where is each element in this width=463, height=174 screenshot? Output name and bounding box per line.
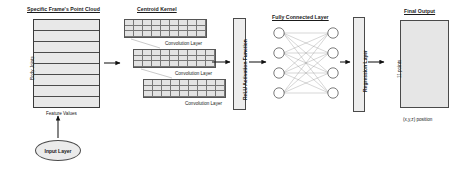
convolution-grid-3 [143,79,226,98]
neural-network-architecture-diagram: Specific Frame's Point Cloud Body Joints… [0,0,463,174]
grid-cell [188,61,197,67]
grid-cell [197,61,206,67]
grid-cell [134,61,143,67]
grid-cell [198,91,207,97]
fully-connected-layer-title: Fully Connected Layer [272,14,329,20]
grid-cell [171,91,180,97]
grid-cell [161,31,170,37]
position-label: (x,y,z) position [403,117,432,122]
grid-cell [189,91,198,97]
grid-cell [144,91,153,97]
final-output-title: Final Output [404,8,435,14]
connector-grid1-grid2 [131,39,160,48]
centroid-kernel-grid [124,19,207,38]
grid-cell [207,91,216,97]
convolution-layer-label-1: Convolution Layer [165,41,202,46]
grid-cell [162,91,171,97]
grid-cell [143,31,152,37]
points-count-label: 11 points [397,60,402,78]
point-cloud-row [34,96,99,97]
input-layer-node: Input Layer [35,140,81,161]
grid-cell [206,61,215,67]
point-cloud-row [34,74,99,75]
point-cloud-row [34,52,99,53]
grid-cell [152,61,161,67]
grid-cell [152,31,161,37]
grid-cell [197,31,206,37]
point-cloud-matrix [33,19,100,108]
grid-cell [180,91,189,97]
connector-grid2-grid3 [141,69,172,78]
grid-cell [216,91,225,97]
grid-cell [179,31,188,37]
regression-layer-label: Regression Layer [362,50,368,92]
point-cloud-row [34,85,99,86]
grid-cell [170,31,179,37]
grid-cell [153,91,162,97]
convolution-layer-label-2: Convolution Layer [175,71,212,76]
input-layer-label: Input Layer [45,148,72,154]
grid-cell [125,31,134,37]
point-cloud-row [34,63,99,64]
convolution-layer-label-3: Convolution Layer [185,101,222,106]
fc-edges [283,33,329,93]
fc-input-nodes [274,28,284,98]
grid-cell [161,61,170,67]
relu-activation-label: ReLU Activation Function [242,39,248,100]
feature-values-axis-label: Feature Values [46,111,77,116]
grid-cell [143,61,152,67]
point-cloud-title: Specific Frame's Point Cloud [27,6,100,12]
point-cloud-row [34,41,99,42]
grid-cell [188,31,197,37]
convolution-grid-2 [133,49,216,68]
grid-cell [179,61,188,67]
centroid-kernel-title: Centroid Kernel [137,6,177,12]
grid-cell [170,61,179,67]
grid-cell [134,31,143,37]
final-output-block [400,20,449,108]
body-joints-axis-label: Body Joints [30,56,35,80]
point-cloud-row [34,30,99,31]
fc-output-nodes [328,28,338,98]
